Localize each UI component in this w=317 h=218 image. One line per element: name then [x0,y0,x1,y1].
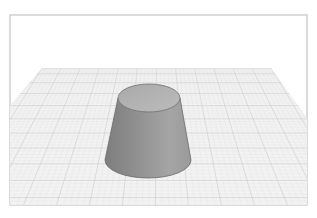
scene-canvas[interactable] [0,0,317,218]
cone-top-face [118,84,180,112]
cone-object[interactable] [105,84,191,178]
3d-viewport[interactable] [0,0,317,218]
